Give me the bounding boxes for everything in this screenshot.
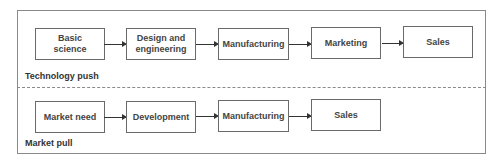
step-marketing: Marketing	[311, 27, 381, 59]
arrow-right-icon	[382, 43, 403, 44]
step-label: Sales	[334, 110, 358, 121]
step-label: Basic science	[53, 33, 86, 55]
arrow-right-icon	[289, 44, 311, 45]
step-manufacturing: Manufacturing	[218, 28, 289, 60]
arrow-right-icon	[196, 116, 218, 117]
arrow-right-icon	[196, 44, 218, 45]
step-sales: Sales	[403, 26, 473, 58]
step-label: Design and engineering	[127, 33, 195, 55]
step-label: Market need	[44, 112, 97, 123]
step-sales: Sales	[311, 99, 381, 131]
step-manufacturing: Manufacturing	[218, 100, 289, 132]
arrow-right-icon	[104, 117, 126, 118]
section-divider	[17, 87, 486, 88]
step-label: Manufacturing	[223, 111, 285, 122]
step-label: Development	[133, 112, 190, 123]
step-label: Marketing	[325, 38, 368, 49]
step-label: Manufacturing	[223, 39, 285, 50]
section-label-market-pull: Market pull	[25, 138, 73, 148]
step-basic-science: Basic science	[35, 28, 105, 60]
step-market-need: Market need	[35, 101, 105, 133]
step-label: Sales	[426, 37, 450, 48]
arrow-right-icon	[289, 116, 311, 117]
section-label-technology-push: Technology push	[25, 71, 99, 81]
step-design-engineering: Design and engineering	[126, 28, 196, 60]
step-development: Development	[126, 101, 196, 133]
arrow-right-icon	[104, 44, 126, 45]
